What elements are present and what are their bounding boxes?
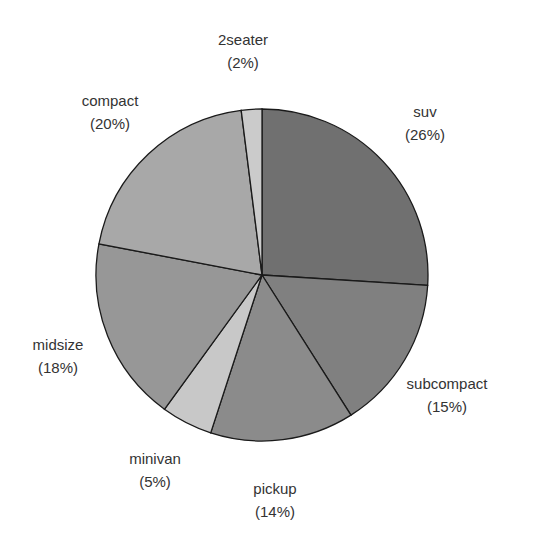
slice-label-name: pickup bbox=[253, 477, 296, 500]
slice-label-percent: (15%) bbox=[407, 395, 488, 418]
slice-label-pickup: pickup(14%) bbox=[253, 477, 296, 523]
slice-label-percent: (18%) bbox=[33, 356, 84, 379]
slice-label-midsize: midsize(18%) bbox=[33, 333, 84, 379]
slice-label-minivan: minivan(5%) bbox=[129, 447, 181, 493]
slice-label-name: suv bbox=[405, 100, 445, 123]
slice-label-2seater: 2seater(2%) bbox=[218, 28, 268, 74]
slice-label-percent: (2%) bbox=[218, 51, 268, 74]
slice-label-name: minivan bbox=[129, 447, 181, 470]
slice-label-compact: compact(20%) bbox=[82, 89, 139, 135]
slice-label-percent: (14%) bbox=[253, 500, 296, 523]
slice-label-percent: (5%) bbox=[129, 470, 181, 493]
slice-label-name: midsize bbox=[33, 333, 84, 356]
slice-label-name: 2seater bbox=[218, 28, 268, 51]
slice-label-name: subcompact bbox=[407, 372, 488, 395]
slice-label-suv: suv(26%) bbox=[405, 100, 445, 146]
slice-label-name: compact bbox=[82, 89, 139, 112]
pie-chart bbox=[0, 0, 535, 538]
slice-label-percent: (20%) bbox=[82, 112, 139, 135]
pie-slice-suv bbox=[262, 109, 428, 285]
slice-label-percent: (26%) bbox=[405, 123, 445, 146]
slice-label-subcompact: subcompact(15%) bbox=[407, 372, 488, 418]
